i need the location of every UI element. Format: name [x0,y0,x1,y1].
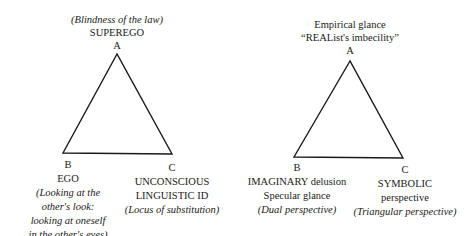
right-c-title-2: perspective [345,191,465,205]
left-vertex-c-label: C UNCONSCIOUS LINGUISTIC ID (Locus of su… [112,161,232,217]
left-b-annotation-3: looking at oneself [8,214,128,228]
left-a-annotation: (Blindness of the law) [57,13,177,26]
left-c-letter: C [112,161,232,175]
right-b-letter: B [232,161,362,175]
left-b-annotation-1: (Looking at the [8,186,128,200]
right-b-annotation: (Dual perspective) [232,203,362,217]
right-c-title-1: SYMBOLIC [345,177,465,191]
left-b-title: EGO [8,172,128,186]
right-a-title-1: Empirical glance [285,18,415,31]
right-b-title-1: IMAGINARY delusion [232,175,362,189]
left-c-title-1: UNCONSCIOUS [112,175,232,189]
right-a-title-2: “REAList's imbecility” [285,31,415,44]
right-vertex-a-label: Empirical glance “REAList's imbecility” … [285,18,415,57]
right-c-annotation: (Triangular perspective) [345,205,465,219]
left-b-letter: B [8,158,128,172]
left-vertex-a-label: (Blindness of the law) SUPEREGO A [57,13,177,52]
left-a-letter: A [57,39,177,52]
left-b-annotation-2: other's look: [8,200,128,214]
right-triangle [294,61,403,158]
right-a-letter: A [285,44,415,57]
left-b-annotation-4: in the other's eyes) [8,228,128,236]
right-c-letter: C [345,163,465,177]
left-a-title: SUPEREGO [57,26,177,39]
left-c-annotation: (Locus of substitution) [112,203,232,217]
left-triangle [63,54,172,154]
right-b-title-2: Specular glance [232,189,362,203]
left-vertex-b-label: B EGO (Looking at the other's look: look… [8,158,128,236]
right-vertex-c-label: C SYMBOLIC perspective (Triangular persp… [345,163,465,219]
left-c-title-2: LINGUISTIC ID [112,189,232,203]
right-vertex-b-label: B IMAGINARY delusion Specular glance (Du… [232,161,362,217]
